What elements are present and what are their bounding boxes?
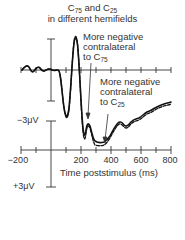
x-tick-label: 400 [103,155,118,165]
annotation-c25: More negative contralateral to C25 [100,77,160,110]
x-tick-label: 600 [133,155,148,165]
y-pos-label: +3μV [13,181,34,191]
x-tick-label: 200 [73,155,88,165]
y-neg-label: −3μV [17,115,38,125]
annotation-c75: More negative contralateral to C75 [83,32,143,65]
x-tick-label: 800 [162,155,177,165]
x-tick-label: −200 [8,155,28,165]
x-axis-label: Time poststimulus (ms) [60,168,158,178]
